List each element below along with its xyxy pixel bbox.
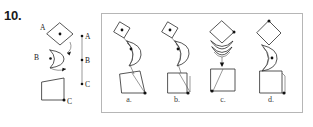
vertical-scale: A B C: [78, 32, 100, 88]
rotation-arrow-icon: [67, 42, 71, 53]
question-figure: 10. A B: [0, 0, 313, 127]
crescent-with-dot-icon: [49, 50, 64, 68]
option-d-label: d.: [268, 95, 274, 104]
option-c-label: c.: [220, 95, 226, 104]
option-b[interactable]: b.: [157, 19, 205, 105]
answer-options-frame: a. b.: [101, 13, 303, 113]
key-shape-c: C: [42, 78, 72, 106]
trapezoid-with-corner-dot-icon: [42, 78, 66, 102]
scale-label-a: A: [85, 32, 91, 41]
key-label-b: B: [34, 53, 39, 62]
diamond-with-center-dot-icon: [47, 23, 73, 45]
option-b-label: b.: [174, 95, 180, 104]
option-a[interactable]: a.: [109, 19, 157, 105]
rotation-arrow-head-icon: [67, 52, 71, 56]
option-d[interactable]: d.: [251, 19, 299, 105]
key-label-a: A: [40, 23, 46, 32]
option-a-label: a.: [126, 95, 132, 104]
key-shape-a: A: [40, 23, 73, 45]
key-shape-b: B: [34, 50, 66, 72]
scale-label-b: B: [85, 56, 90, 65]
option-a-hitbox[interactable]: [109, 19, 157, 105]
key-label-c: C: [67, 97, 72, 106]
option-c[interactable]: c.: [205, 19, 253, 105]
question-number: 10.: [4, 8, 21, 23]
option-b-hitbox[interactable]: [157, 19, 205, 105]
scale-label-c: C: [85, 80, 90, 88]
